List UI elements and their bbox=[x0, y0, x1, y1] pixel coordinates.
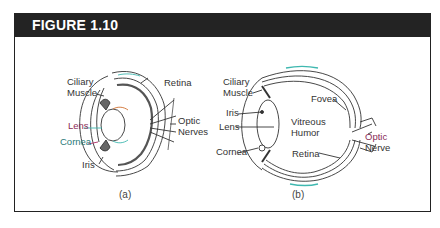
caption-a: (a) bbox=[119, 189, 131, 200]
label-lens-b: Lens bbox=[219, 121, 240, 132]
label-vitreous-humor-b-1: Vitreous bbox=[291, 116, 326, 127]
label-ciliary-muscle-a-2: Muscle bbox=[67, 87, 97, 98]
label-optic-nerve-b-2: Nerve bbox=[365, 142, 390, 153]
caption-b: (b) bbox=[292, 189, 304, 200]
label-retina-b: Retina bbox=[292, 148, 320, 159]
label-retina-a: Retina bbox=[164, 77, 192, 88]
label-cornea-b: Cornea bbox=[216, 146, 248, 157]
label-vitreous-humor-b-2: Humor bbox=[291, 127, 320, 138]
label-optic-nerves-a-2: Nerves bbox=[178, 126, 208, 137]
label-iris-b: Iris bbox=[226, 107, 239, 118]
label-optic-nerves-a-1: Optic bbox=[178, 115, 200, 126]
eye-diagrams: Ciliary Muscle Retina Lens Optic Nerves … bbox=[0, 0, 440, 228]
label-fovea-b: Fovea bbox=[311, 93, 338, 104]
label-iris-a: Iris bbox=[82, 159, 95, 170]
label-ciliary-muscle-a-1: Ciliary bbox=[67, 76, 94, 87]
label-ciliary-muscle-b-1: Ciliary bbox=[223, 76, 250, 87]
label-cornea-a: Cornea bbox=[60, 136, 92, 147]
label-optic-nerve-b-1: Optic bbox=[365, 131, 387, 142]
label-ciliary-muscle-b-2: Muscle bbox=[223, 87, 253, 98]
labels-panel-a: Ciliary Muscle Retina Lens Optic Nerves … bbox=[60, 76, 208, 200]
label-lens-a: Lens bbox=[68, 120, 89, 131]
